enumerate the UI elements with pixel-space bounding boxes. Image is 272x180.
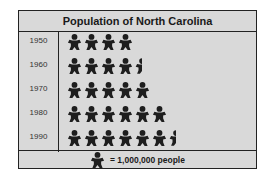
person-icon	[84, 82, 99, 98]
person-icon	[67, 130, 82, 146]
person-icon	[90, 152, 105, 168]
person-icon	[118, 82, 133, 98]
person-icon	[152, 130, 167, 146]
person-icon	[84, 106, 99, 122]
half-person-icon	[169, 130, 176, 146]
person-icon	[84, 34, 99, 50]
person-icon	[67, 82, 82, 98]
person-icon	[67, 58, 82, 74]
icon-row	[67, 82, 150, 98]
person-icon	[101, 34, 116, 50]
year-column: 1950 1960 1970 1980 1990	[19, 31, 59, 152]
pictograph-chart: Population of North Carolina 1950 1960 1…	[18, 10, 257, 169]
icon-row	[67, 58, 142, 74]
person-icon	[101, 106, 116, 122]
person-icon	[118, 106, 133, 122]
person-icon	[84, 130, 99, 146]
row-label: 1960	[19, 60, 58, 69]
chart-body: 1950 1960 1970 1980 1990	[19, 31, 256, 152]
person-icon	[135, 130, 150, 146]
person-icon	[135, 82, 150, 98]
icon-row	[67, 34, 133, 50]
person-icon	[101, 82, 116, 98]
icon-row	[67, 106, 167, 122]
person-icon	[101, 130, 116, 146]
icon-row	[67, 130, 176, 146]
person-icon	[118, 34, 133, 50]
half-person-icon	[135, 58, 142, 74]
row-label: 1980	[19, 108, 58, 117]
person-icon	[118, 130, 133, 146]
chart-title: Population of North Carolina	[19, 11, 256, 32]
row-label: 1990	[19, 132, 58, 141]
legend-key: = 1,000,000 people	[19, 150, 256, 168]
row-label: 1950	[19, 36, 58, 45]
person-icon	[84, 58, 99, 74]
row-label: 1970	[19, 84, 58, 93]
person-icon	[118, 58, 133, 74]
person-icon	[101, 58, 116, 74]
person-icon	[67, 34, 82, 50]
person-icon	[67, 106, 82, 122]
icon-area	[60, 31, 256, 152]
legend-label: = 1,000,000 people	[110, 155, 185, 165]
person-icon	[135, 106, 150, 122]
person-icon	[152, 106, 167, 122]
